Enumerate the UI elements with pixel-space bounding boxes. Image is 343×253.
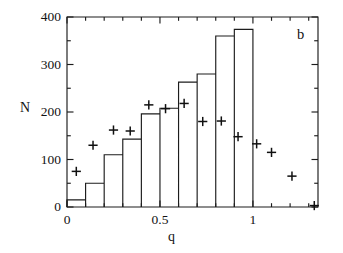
histogram-step-path [67,29,253,207]
y-axis-label: N [20,101,30,115]
panel-label-b: b [297,27,304,42]
y-tick-label: 300 [41,58,61,72]
plus-marker [267,148,276,157]
plus-marker [217,116,226,125]
histogram-outline [67,29,253,207]
plus-marker [144,100,153,109]
y-tick-label: 200 [41,105,61,119]
plus-marker [180,99,189,108]
figure-panel-b: 0100200300400 00.51 N q b [0,0,343,253]
plus-marker [88,141,97,150]
x-tick-label: 0 [47,213,87,227]
x-tick-label: 1 [233,213,273,227]
plus-marker [126,126,135,135]
x-axis-label: q [0,230,343,244]
plus-marker [161,104,170,113]
plus-marker [198,117,207,126]
plus-marker [109,125,118,134]
y-tick-label: 0 [54,200,61,214]
plus-marker [72,167,81,176]
plus-marker [287,172,296,181]
x-tick-label: 0.5 [140,213,180,227]
y-tick-label: 100 [41,153,61,167]
y-tick-label: 400 [41,10,61,24]
